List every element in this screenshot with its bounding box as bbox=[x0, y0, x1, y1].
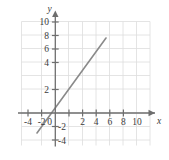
y-tick-label-neg4: -4 bbox=[58, 136, 66, 146]
x-tick-label-2: 2 bbox=[80, 117, 85, 127]
graph-canvas: 10 8 6 4 2 -2 -4 -4 -2 2 4 6 8 10 0 y x bbox=[0, 0, 169, 160]
x-tick-label-neg2: -2 bbox=[38, 117, 46, 127]
y-axis-arrowhead bbox=[52, 11, 58, 18]
y-tick-label-4: 4 bbox=[44, 58, 49, 68]
x-tick-label-4: 4 bbox=[94, 117, 99, 127]
x-axis-arrowhead bbox=[149, 110, 156, 116]
y-tick-label-2: 2 bbox=[44, 85, 49, 95]
y-tick-label-6: 6 bbox=[44, 44, 49, 54]
x-tick-label-6: 6 bbox=[107, 117, 112, 127]
y-tick-label-10: 10 bbox=[40, 17, 50, 27]
y-tick-label-8: 8 bbox=[44, 31, 49, 41]
x-tick-label-10: 10 bbox=[132, 117, 142, 127]
x-tick-label-8: 8 bbox=[121, 117, 126, 127]
origin-label: 0 bbox=[47, 117, 52, 127]
y-axis-label: y bbox=[46, 4, 52, 14]
y-tick-label-neg2: -2 bbox=[58, 122, 66, 132]
coordinate-plane-figure: 10 8 6 4 2 -2 -4 -4 -2 2 4 6 8 10 0 y x bbox=[0, 0, 169, 160]
x-tick-label-neg4: -4 bbox=[24, 117, 32, 127]
x-axis-label: x bbox=[156, 116, 162, 126]
